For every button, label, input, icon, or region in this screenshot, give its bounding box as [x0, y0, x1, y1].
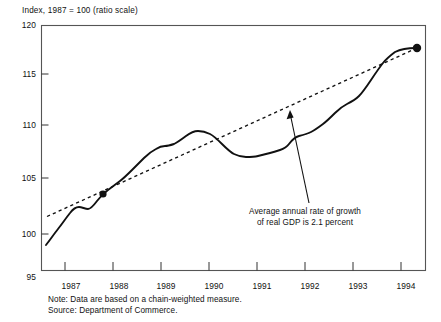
x-axis-ticks [65, 262, 401, 271]
series-markers [99, 44, 421, 198]
marker-1987-start [99, 190, 106, 197]
growth-annotation: Average annual rate of growth of real GD… [225, 206, 385, 228]
growth-annotation-line1: Average annual rate of growth [225, 206, 385, 217]
marker-1994-end [413, 44, 421, 52]
annotation-arrow [287, 110, 309, 203]
figure-container: Index, 1987 = 100 (ratio scale) 120 115 … [0, 0, 441, 322]
plot-frame [42, 26, 426, 271]
y-axis-ticks [42, 74, 49, 234]
chart-plot-area [0, 0, 441, 322]
note-text: Note: Data are based on a chain-weighted… [48, 295, 242, 306]
growth-annotation-line2: of real GDP is 2.1 percent [225, 217, 385, 228]
source-text: Source: Department of Commerce. [48, 306, 242, 317]
chart-footnotes: Note: Data are based on a chain-weighted… [48, 295, 242, 316]
